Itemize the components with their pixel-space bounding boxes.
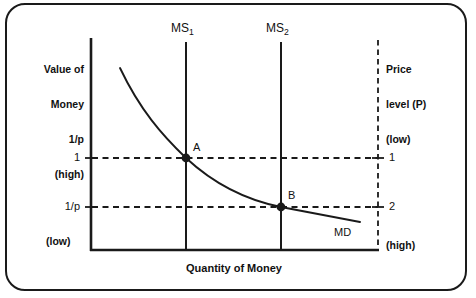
equilibrium-point-a	[182, 154, 191, 163]
point-label-a: A	[193, 141, 200, 153]
md-curve-label: MD	[334, 226, 351, 238]
point-label-b: B	[288, 189, 295, 201]
ms2-subscript: 2	[284, 27, 289, 37]
right-tick-label-2: 2	[389, 200, 395, 212]
right-tick-label-1: 1	[389, 151, 395, 163]
y-axis-label-line-2: Money	[14, 99, 84, 111]
left-tick-label-1-over-p: 1/p	[46, 200, 80, 212]
right-axis-high-note: (high)	[386, 240, 415, 252]
md-demand-curve	[120, 68, 360, 222]
right-axis-label-line-1: Price	[386, 64, 472, 76]
ms1-curve-label: MS1	[171, 22, 194, 35]
diagram-canvas: Value of Money 1/p (high) Price level (P…	[0, 0, 476, 298]
y-axis-label-left: Value of Money 1/p (high)	[14, 40, 84, 205]
ms2-curve-label: MS2	[266, 22, 289, 35]
x-axis-title: Quantity of Money	[90, 262, 378, 274]
right-axis-label-line-3: (low)	[386, 134, 472, 146]
ms1-base: MS	[171, 21, 189, 35]
y-axis-label-line-4: (high)	[14, 169, 84, 181]
right-axis-label-line-2: level (P)	[386, 99, 472, 111]
ms1-subscript: 1	[189, 27, 194, 37]
y-axis-label-line-1: Value of	[14, 64, 84, 76]
y-axis-label-line-3: 1/p	[14, 134, 84, 146]
left-tick-label-1: 1	[56, 151, 80, 163]
equilibrium-point-b	[277, 203, 286, 212]
y-axis-label-right: Price level (P) (low)	[386, 40, 472, 169]
left-axis-low-note: (low)	[46, 236, 71, 248]
ms2-base: MS	[266, 21, 284, 35]
